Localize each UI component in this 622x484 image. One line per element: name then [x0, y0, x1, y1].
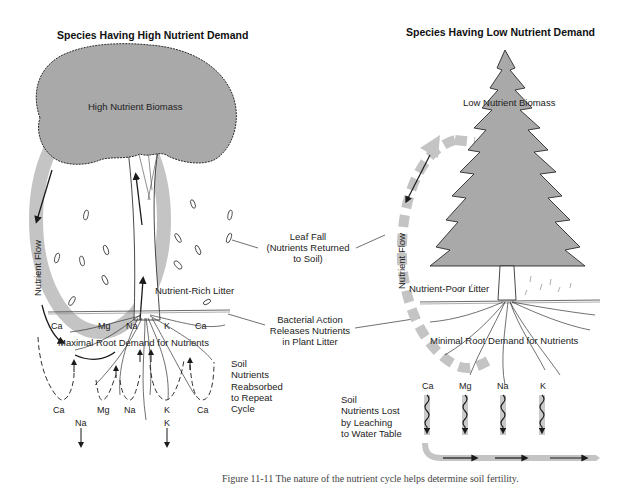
bacterial-line: Releases Nutrients [265, 325, 355, 336]
right-panel-title: Species Having Low Nutrient Demand [406, 26, 595, 38]
left-soil-note-line: Cycle [231, 403, 283, 414]
left-ion-na-lower: Na [124, 405, 136, 415]
right-tree-trunk [498, 266, 516, 300]
right-soil-note-line: Soil [341, 394, 402, 405]
right-canopy-label: Low Nutrient Biomass [463, 97, 555, 108]
right-soil-note: Soil Nutrients Lost by Leaching to Water… [341, 394, 402, 439]
left-leached-k: K [164, 418, 170, 428]
right-soil-note-line: to Water Table [341, 428, 402, 439]
bacterial-action-callout: Bacterial Action Releases Nutrients in P… [265, 314, 355, 347]
right-tree-canopy [430, 50, 585, 266]
left-ion-mg-upper: Mg [98, 321, 111, 331]
right-litter-label: Nutrient-Poor Litter [409, 283, 489, 294]
right-soil-note-line: by Leaching [341, 417, 402, 428]
leaf-fall-line: (Nutrients Returned [258, 242, 358, 253]
leaf-fall-line: Leaf Fall [258, 231, 358, 242]
left-ion-ca2-upper: Ca [195, 321, 207, 331]
right-root-label: Minimal Root Demand for Nutrients [430, 335, 578, 346]
bacterial-line: in Plant Litter [265, 336, 355, 347]
left-leaching-arrows [81, 428, 167, 445]
figure-caption: Figure 11-11 The nature of the nutrient … [222, 473, 519, 484]
left-soil-note: Soil Nutrients Reabsorbed to Repeat Cycl… [231, 358, 283, 414]
bacterial-line: Bacterial Action [265, 314, 355, 325]
left-ion-k-upper: K [164, 321, 170, 331]
left-soil-note-line: Nutrients [231, 369, 283, 380]
leaf-fall-line: to Soil) [258, 253, 358, 264]
left-litter-label: Nutrient-Rich Litter [155, 285, 234, 296]
left-ion-ca-lower: Ca [53, 405, 65, 415]
left-root-label: Maximal Root Demand for Nutrients [58, 337, 209, 348]
left-ion-na-upper: Na [126, 321, 138, 331]
right-ion-ca: Ca [422, 381, 434, 391]
right-ion-mg: Mg [459, 381, 472, 391]
left-ion-ca2-lower: Ca [197, 405, 209, 415]
right-flow-label: Nutrient Flow [396, 233, 407, 289]
left-soil-note-line: to Repeat [231, 392, 283, 403]
right-soil-note-line: Nutrients Lost [341, 405, 402, 416]
left-ion-ca-upper: Ca [51, 321, 63, 331]
left-canopy-label: High Nutrient Biomass [88, 101, 183, 112]
left-leached-na: Na [75, 418, 87, 428]
left-panel-title: Species Having High Nutrient Demand [57, 29, 248, 41]
leaf-fall-callout: Leaf Fall (Nutrients Returned to Soil) [258, 231, 358, 264]
left-soil-note-line: Reabsorbed [231, 381, 283, 392]
right-ion-k: K [540, 381, 546, 391]
left-ion-k-lower: K [164, 405, 170, 415]
left-flow-label: Nutrient Flow [32, 240, 43, 296]
water-table-flow [422, 443, 600, 461]
right-leaching-arrows [425, 395, 544, 435]
right-ion-na: Na [497, 381, 509, 391]
left-ion-mg-lower: Mg [97, 405, 110, 415]
left-soil-note-line: Soil [231, 358, 283, 369]
right-flow-arrow [407, 155, 430, 200]
